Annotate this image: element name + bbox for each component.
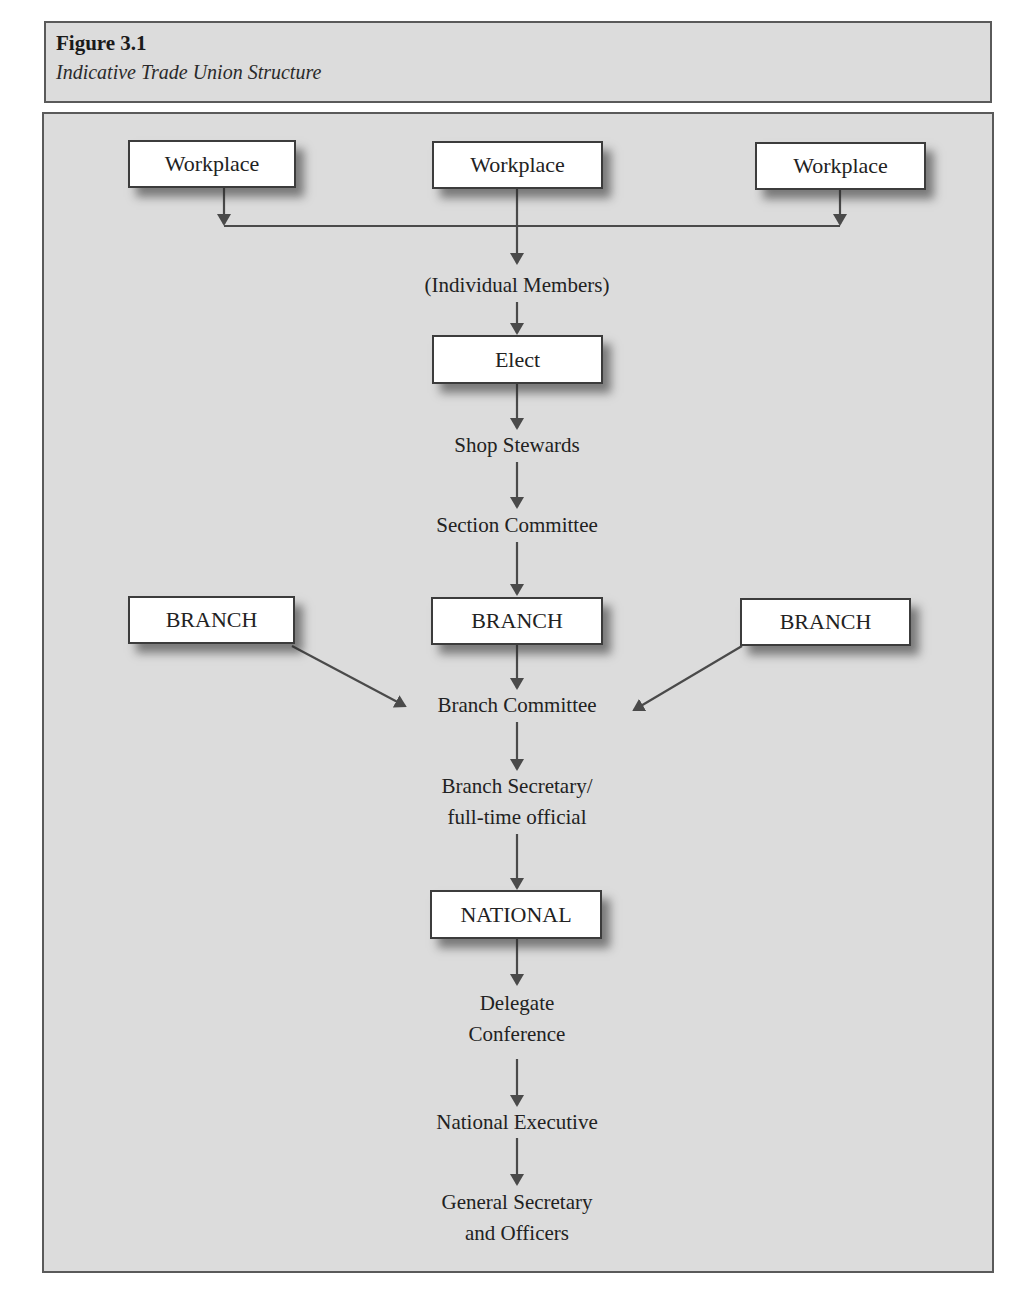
branch-box-center: BRANCH bbox=[431, 597, 603, 645]
national-label: NATIONAL bbox=[460, 902, 571, 928]
general-secretary-label: General Secretary and Officers bbox=[442, 1187, 593, 1249]
branch-committee-label: Branch Committee bbox=[437, 690, 596, 721]
national-executive-label: National Executive bbox=[436, 1107, 598, 1138]
individual-members-label: (Individual Members) bbox=[425, 270, 610, 301]
branch-secretary-line1: Branch Secretary/ bbox=[441, 771, 592, 802]
branch-secretary-line2: full-time official bbox=[441, 802, 592, 833]
delegate-conference-label: Delegate Conference bbox=[469, 988, 566, 1050]
workplace-label: Workplace bbox=[793, 153, 888, 179]
delegate-conference-line1: Delegate bbox=[469, 988, 566, 1019]
branch-box-right: BRANCH bbox=[740, 598, 911, 646]
general-secretary-line2: and Officers bbox=[442, 1218, 593, 1249]
elect-box: Elect bbox=[432, 335, 603, 384]
branch-label: BRANCH bbox=[471, 608, 563, 634]
workplace-label: Workplace bbox=[165, 151, 260, 177]
general-secretary-line1: General Secretary bbox=[442, 1187, 593, 1218]
branch-label: BRANCH bbox=[166, 607, 258, 633]
branch-secretary-label: Branch Secretary/ full-time official bbox=[441, 771, 592, 833]
workplace-box-right: Workplace bbox=[755, 142, 926, 190]
arrow-branch-right-committee bbox=[634, 646, 742, 710]
branch-box-left: BRANCH bbox=[128, 596, 295, 644]
national-box: NATIONAL bbox=[430, 890, 602, 939]
arrow-branch-left-committee bbox=[292, 646, 405, 706]
delegate-conference-line2: Conference bbox=[469, 1019, 566, 1050]
section-committee-label: Section Committee bbox=[436, 510, 598, 541]
workplace-label: Workplace bbox=[470, 152, 565, 178]
branch-label: BRANCH bbox=[780, 609, 872, 635]
workplace-box-center: Workplace bbox=[432, 141, 603, 189]
elect-label: Elect bbox=[495, 347, 540, 373]
shop-stewards-label: Shop Stewards bbox=[454, 430, 579, 461]
workplace-box-left: Workplace bbox=[128, 140, 296, 188]
